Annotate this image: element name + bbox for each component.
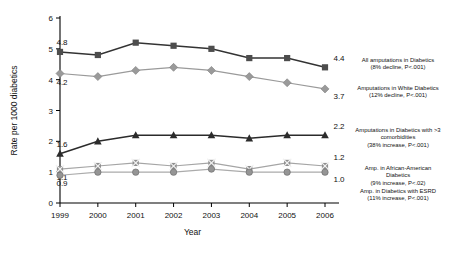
marker-square [95, 52, 101, 58]
marker-diamond [207, 66, 215, 74]
data-point [57, 49, 63, 55]
legend-label: (11% increase, P<.001) [367, 195, 428, 201]
data-point [246, 55, 252, 61]
x-tick-label: 2001 [127, 211, 145, 220]
marker-square [133, 40, 139, 46]
marker-diamond [132, 66, 140, 74]
data-point [57, 172, 63, 178]
y-tick-label: 5 [49, 45, 54, 54]
marker-circle [246, 169, 252, 175]
marker-square [322, 64, 328, 70]
marker-square [284, 55, 290, 61]
data-point [283, 159, 291, 167]
data-point [132, 66, 140, 74]
end-value-label: 2.2 [333, 122, 345, 131]
data-point [284, 169, 290, 175]
legend-label: Amputations in Diabetics with >3 [355, 127, 441, 133]
marker-diamond [56, 70, 64, 78]
marker-diamond [283, 79, 291, 87]
legend-label: (38% increase, P<.001) [367, 142, 429, 148]
marker-square [57, 49, 63, 55]
end-value-label: 4.4 [333, 54, 345, 63]
marker-diamond [170, 63, 178, 71]
data-point [170, 43, 176, 49]
legend-label: (8% decline, P<.001) [371, 64, 426, 70]
marker-circle [322, 169, 328, 175]
end-value-label: 1.2 [333, 153, 345, 162]
data-point [207, 66, 215, 74]
marker-circle [57, 172, 63, 178]
y-tick-label: 1 [49, 168, 54, 177]
marker-circle [170, 169, 176, 175]
chart-container: 012345619992000200120022003200420052006Y… [0, 0, 456, 256]
x-tick-label: 2003 [203, 211, 221, 220]
marker-circle [133, 169, 139, 175]
start-value-label: 0.9 [56, 179, 68, 188]
data-point [246, 169, 252, 175]
legend-label: Amp. in Diabetics with ESRD [360, 188, 436, 194]
series-3 [56, 131, 329, 157]
marker-circle [95, 169, 101, 175]
legend-label: comorbidities [381, 134, 416, 140]
data-point [245, 73, 253, 81]
data-point [133, 169, 139, 175]
series-2 [56, 63, 329, 93]
legend-label: Diabetics [386, 172, 410, 178]
data-point [284, 55, 290, 61]
marker-square [208, 46, 214, 52]
data-point [322, 64, 328, 70]
start-value-label: 4.8 [56, 38, 68, 47]
x-tick-label: 2006 [316, 211, 334, 220]
data-point [208, 46, 214, 52]
legend-label: (9% increase, P<.02) [370, 180, 425, 186]
x-tick-label: 2005 [278, 211, 296, 220]
data-point [322, 169, 328, 175]
data-point [132, 159, 140, 167]
marker-square [246, 55, 252, 61]
y-tick-label: 2 [49, 137, 54, 146]
y-tick-label: 6 [49, 14, 54, 23]
series-1 [57, 40, 328, 71]
marker-diamond [94, 73, 102, 81]
legend-label: Amputations in White Diabetics [357, 85, 439, 91]
y-tick-label: 0 [49, 199, 54, 208]
marker-circle [284, 169, 290, 175]
marker-diamond [321, 85, 329, 93]
legend-label: (12% decline, P<.001) [369, 92, 427, 98]
data-point [170, 63, 178, 71]
marker-diamond [245, 73, 253, 81]
data-point [208, 166, 214, 172]
x-tick-label: 2002 [165, 211, 183, 220]
x-tick-label: 1999 [51, 211, 69, 220]
data-point [283, 79, 291, 87]
x-tick-label: 2000 [89, 211, 107, 220]
start-value-label: 4.2 [56, 78, 68, 87]
end-value-label: 3.7 [333, 92, 345, 101]
y-tick-label: 4 [49, 76, 54, 85]
end-value-label: 1.0 [333, 175, 345, 184]
start-value-label: 1.6 [56, 140, 68, 149]
legend-label: All amputations in Diabetics [362, 57, 434, 63]
line-chart: 012345619992000200120022003200420052006Y… [0, 0, 456, 256]
x-tick-label: 2004 [240, 211, 258, 220]
marker-square [170, 43, 176, 49]
y-tick-label: 3 [49, 107, 54, 116]
data-point [94, 73, 102, 81]
data-point [170, 169, 176, 175]
legend-label: Amp. in African-American [365, 165, 431, 171]
x-axis-title: Year [184, 227, 201, 237]
data-point [95, 169, 101, 175]
data-point [133, 40, 139, 46]
y-axis-title: Rate per 1000 diabetics [9, 66, 19, 156]
data-point [56, 70, 64, 78]
data-point [321, 85, 329, 93]
marker-circle [208, 166, 214, 172]
data-point [95, 52, 101, 58]
